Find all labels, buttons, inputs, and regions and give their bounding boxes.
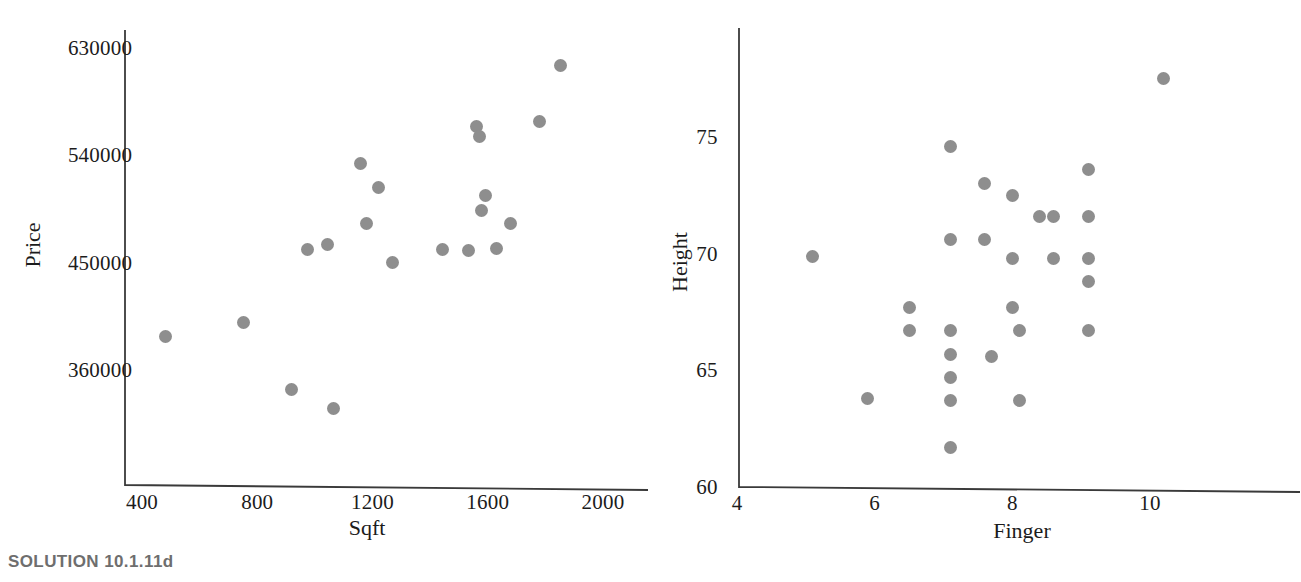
data-point-height-vs-finger	[985, 350, 998, 363]
data-point-price-vs-sqft	[473, 130, 486, 143]
data-point-height-vs-finger	[1082, 324, 1095, 337]
data-point-price-vs-sqft	[327, 402, 340, 415]
data-point-height-vs-finger	[944, 233, 957, 246]
y-tick-label-price-vs-sqft: 450000	[68, 250, 132, 275]
x-tick-label-price-vs-sqft: 1600	[466, 490, 509, 515]
axis-lines-left	[0, 0, 650, 582]
chart-panel-price-vs-sqft: 400800120016002000 360000450000540000630…	[0, 0, 650, 582]
data-point-height-vs-finger	[944, 371, 957, 384]
scatter-plot-price-vs-sqft: 400800120016002000 360000450000540000630…	[0, 0, 650, 582]
y-tick-label-price-vs-sqft: 540000	[68, 143, 132, 168]
data-point-price-vs-sqft	[504, 217, 517, 230]
x-tick-label-height-vs-finger: 8	[1007, 491, 1018, 516]
data-point-height-vs-finger	[1006, 301, 1019, 314]
data-point-price-vs-sqft	[360, 217, 373, 230]
y-axis-title-left: Price	[20, 222, 46, 267]
y-axis-title-right: Height	[667, 232, 693, 292]
data-point-height-vs-finger	[903, 324, 916, 337]
data-point-height-vs-finger	[903, 301, 916, 314]
x-tick-label-height-vs-finger: 6	[869, 491, 880, 516]
data-point-height-vs-finger	[944, 140, 957, 153]
data-point-height-vs-finger	[1082, 210, 1095, 223]
y-tick-label-price-vs-sqft: 630000	[68, 36, 132, 61]
x-tick-label-price-vs-sqft: 800	[241, 490, 273, 515]
axis-lines-right	[650, 0, 1301, 582]
chart-panel-height-vs-finger: 46810 60657075 Finger Height SOLUTION 10…	[650, 0, 1301, 582]
x-axis-title-right: Finger	[993, 518, 1050, 544]
y-tick-label-height-vs-finger: 60	[696, 475, 717, 500]
x-tick-label-price-vs-sqft: 1200	[351, 490, 394, 515]
data-point-height-vs-finger	[1013, 324, 1026, 337]
x-tick-label-height-vs-finger: 10	[1139, 491, 1160, 516]
data-point-height-vs-finger	[1047, 252, 1060, 265]
data-point-height-vs-finger	[806, 250, 819, 263]
data-point-height-vs-finger	[944, 394, 957, 407]
data-point-height-vs-finger	[944, 348, 957, 361]
data-point-height-vs-finger	[1082, 163, 1095, 176]
data-point-height-vs-finger	[1047, 210, 1060, 223]
data-point-price-vs-sqft	[475, 204, 488, 217]
data-point-price-vs-sqft	[159, 330, 172, 343]
data-point-height-vs-finger	[1082, 252, 1095, 265]
x-tick-label-price-vs-sqft: 2000	[582, 490, 625, 515]
data-point-height-vs-finger	[944, 324, 957, 337]
x-tick-label-height-vs-finger: 4	[732, 491, 743, 516]
data-point-height-vs-finger	[1006, 252, 1019, 265]
y-tick-label-price-vs-sqft: 360000	[68, 358, 132, 383]
x-tick-label-price-vs-sqft: 400	[126, 490, 158, 515]
figure-page: 400800120016002000 360000450000540000630…	[0, 0, 1301, 582]
y-tick-label-height-vs-finger: 65	[696, 358, 717, 383]
data-point-height-vs-finger	[944, 441, 957, 454]
y-tick-label-height-vs-finger: 75	[696, 125, 717, 150]
data-point-price-vs-sqft	[372, 181, 385, 194]
data-point-price-vs-sqft	[285, 383, 298, 396]
scatter-plot-height-vs-finger: 46810 60657075 Finger Height	[650, 0, 1301, 582]
data-point-height-vs-finger	[1006, 189, 1019, 202]
data-point-price-vs-sqft	[237, 316, 250, 329]
data-point-height-vs-finger	[1013, 394, 1026, 407]
x-axis-title-left: Sqft	[349, 515, 386, 541]
data-point-height-vs-finger	[1082, 275, 1095, 288]
figure-caption-left: SOLUTION 10.1.11d	[8, 552, 174, 572]
y-tick-label-height-vs-finger: 70	[696, 241, 717, 266]
